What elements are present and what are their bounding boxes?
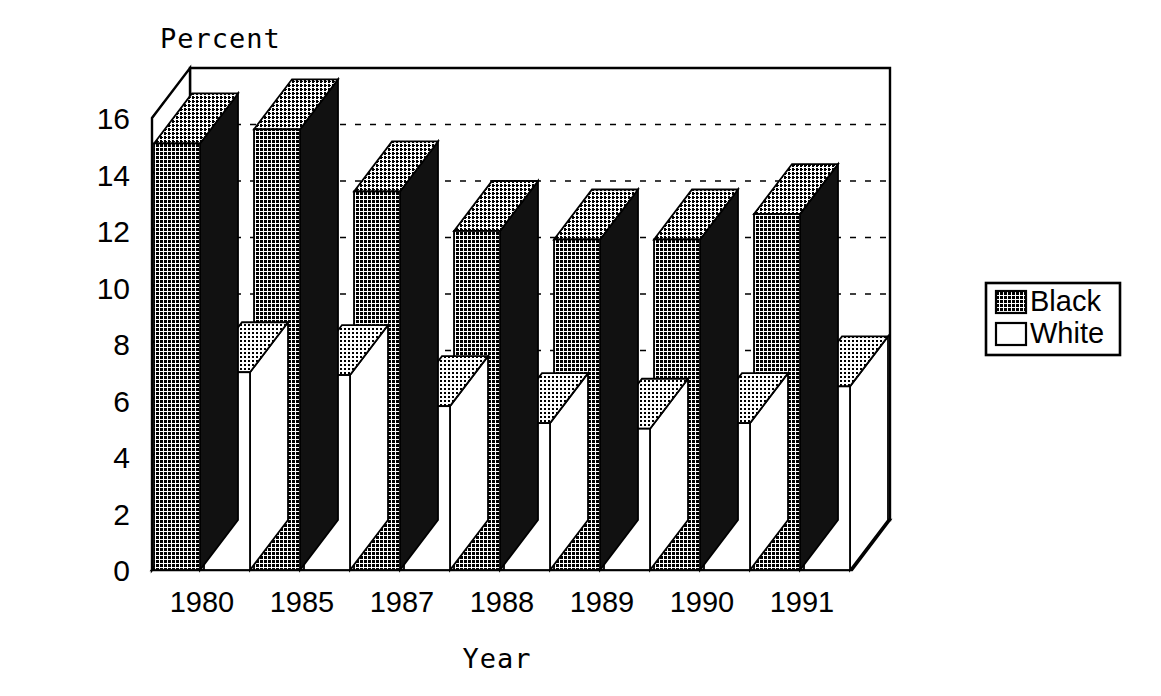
x-axis-tick-label: 1990 [670,586,735,618]
y-axis-tick-label: 12 [97,215,130,248]
y-axis-tick-label: 2 [113,498,130,531]
bar-black-side-face [200,93,238,570]
legend-item-label: Black [1030,285,1101,317]
y-axis-tick-label: 16 [97,102,130,135]
y-axis-tick-label: 0 [113,554,130,587]
legend-swatch-black [996,291,1026,313]
bar-black-side-face [400,141,438,570]
bar-black-side-face [300,79,338,570]
chart-figure: 0246810121416PercentYear1991199019891988… [0,0,1161,696]
bar-black-side-face [500,181,538,570]
y-axis-tick-label: 8 [113,328,130,361]
x-axis-tick-label: 1988 [470,586,535,618]
legend-item-label: White [1030,317,1104,349]
y-axis-tick-label: 14 [97,159,130,192]
x-axis-tick-label: 1987 [370,586,435,618]
y-axis-tick-label: 6 [113,385,130,418]
bar-black-1980 [154,93,238,570]
bar-chart-canvas: 0246810121416PercentYear1991199019891988… [0,0,1161,696]
legend-swatch-white [996,323,1026,345]
bar-black-side-face [700,189,738,570]
x-axis-tick-label: 1989 [570,586,635,618]
x-axis-title: Year [462,643,531,674]
x-axis-tick-label: 1991 [770,586,835,618]
chart-legend: BlackWhite [986,283,1120,355]
bar-black-front-face [154,143,200,570]
y-axis-tick-label: 10 [97,272,130,305]
x-axis-tick-label: 1980 [170,586,235,618]
y-axis-title: Percent [160,23,281,54]
bar-black-side-face [600,189,638,570]
bar-black-side-face [800,164,838,570]
x-axis-tick-label: 1985 [270,586,335,618]
y-axis-tick-label: 4 [113,441,130,474]
